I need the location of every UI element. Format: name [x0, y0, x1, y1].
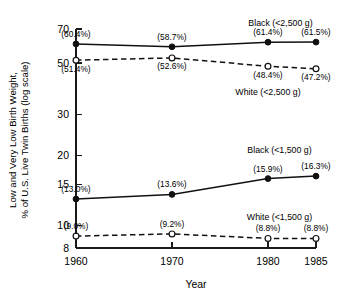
y-axis-tick-label: 20 [57, 149, 69, 161]
data-point-label: (61.4%) [253, 27, 283, 37]
x-axis-tick-label: 1960 [64, 255, 88, 267]
x-axis-tick-label: 1985 [304, 255, 328, 267]
data-point-label: (51.4%) [61, 64, 91, 74]
data-point-label: (52.6%) [157, 61, 187, 71]
data-point-label: (61.5%) [301, 27, 331, 37]
series-line [76, 234, 316, 239]
y-axis-tick-label: 30 [57, 108, 69, 120]
series-line [76, 42, 316, 47]
data-point-label: (48.4%) [253, 70, 283, 80]
data-point-marker [313, 173, 319, 179]
y-axis-tick-label: 8 [63, 242, 69, 254]
data-point-label: (9.0%) [64, 221, 89, 231]
series-legend-label: White (<2,500 g) [235, 87, 300, 97]
series-line [76, 58, 316, 69]
y-axis-title-group: Low and Very Low Birth Weight, % of U.S.… [7, 61, 30, 218]
line-chart-svg: Low and Very Low Birth Weight, % of U.S.… [0, 0, 343, 297]
data-point-marker [169, 44, 175, 50]
data-point-label: (9.2%) [160, 219, 185, 229]
data-point-label: (47.2%) [301, 72, 331, 82]
series-legend-label: Black (<2,500 g) [248, 18, 312, 28]
data-point-marker [169, 231, 175, 237]
data-point-label: (13.0%) [61, 184, 91, 194]
data-point-marker [313, 39, 319, 45]
data-point-marker [73, 233, 79, 239]
series-3 [73, 173, 319, 202]
labels-layer: (60.4%)(58.7%)(61.4%)(61.5%)Black (<2,50… [61, 18, 331, 234]
series-line [76, 176, 316, 199]
data-point-label: (13.6%) [157, 179, 187, 189]
data-point-marker [265, 176, 271, 182]
data-point-marker [313, 236, 319, 242]
data-point-marker [265, 236, 271, 242]
data-point-label: (60.4%) [61, 29, 91, 39]
y-axis-title-line2: % of U.S. Live Twin Births (log scale) [19, 61, 30, 218]
data-point-marker [265, 63, 271, 69]
data-point-marker [169, 192, 175, 198]
data-point-label: (8.8%) [304, 223, 329, 233]
data-point-marker [73, 196, 79, 202]
data-point-label: (58.7%) [157, 32, 187, 42]
x-axis-tick-label: 1980 [256, 255, 280, 267]
series-legend-label: White (<1,500 g) [247, 212, 312, 222]
data-point-marker [73, 41, 79, 47]
data-point-label: (15.9%) [253, 164, 283, 174]
series-1 [73, 39, 319, 50]
x-axis-title: Year [185, 278, 207, 290]
data-point-marker [73, 57, 79, 63]
data-point-label: (16.3%) [301, 161, 331, 171]
data-point-marker [265, 39, 271, 45]
chart-figure: Low and Very Low Birth Weight, % of U.S.… [0, 0, 343, 297]
y-axis-title-line1: Low and Very Low Birth Weight, [7, 72, 18, 208]
data-point-marker [313, 66, 319, 72]
data-point-label: (8.8%) [256, 223, 281, 233]
x-axis-tick-label: 1970 [160, 255, 184, 267]
data-point-marker [169, 55, 175, 61]
series-legend-label: Black (<1,500 g) [247, 145, 311, 155]
series-4 [73, 231, 319, 241]
